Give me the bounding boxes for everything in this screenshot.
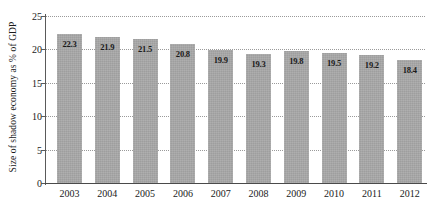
bar-value-label: 19.3 [246, 59, 271, 69]
x-axis-tick-label: 2010 [315, 188, 353, 199]
y-axis-tick-mark [41, 150, 45, 151]
y-axis-tick-label: 0 [24, 178, 42, 189]
bar[interactable] [95, 37, 120, 183]
y-axis-tick-label: 5 [24, 144, 42, 155]
x-axis-line [45, 183, 427, 184]
x-axis-tick-label: 2011 [353, 188, 391, 199]
bar-value-label: 22.3 [57, 39, 82, 49]
y-axis-tick-mark [41, 16, 45, 17]
x-axis-tick-labels: 2003200420052006200720082009201020112012 [46, 188, 425, 204]
bar[interactable] [322, 53, 347, 183]
bar-chart: Size of shadow economy as % of GDP 05101… [0, 0, 434, 219]
x-axis-tick-label: 2004 [88, 188, 126, 199]
y-axis-tick-label: 25 [24, 11, 42, 22]
x-axis-tick-label: 2012 [391, 188, 429, 199]
bar[interactable] [57, 34, 82, 183]
y-axis-tick-mark [41, 83, 45, 84]
y-axis-tick-label: 15 [24, 77, 42, 88]
bar[interactable] [170, 44, 195, 183]
x-axis-tick-label: 2005 [126, 188, 164, 199]
bars-layer: 22.321.921.520.819.919.319.819.519.218.4 [46, 16, 425, 183]
y-axis-title: Size of shadow economy as % of GDP [6, 2, 20, 192]
x-axis-tick-label: 2006 [164, 188, 202, 199]
bar-value-label: 19.9 [208, 55, 233, 65]
y-axis-tick-mark [41, 49, 45, 50]
bar-value-label: 21.5 [133, 44, 158, 54]
bar[interactable] [284, 51, 309, 183]
bar-value-label: 19.2 [359, 60, 384, 70]
x-axis-tick-label: 2009 [277, 188, 315, 199]
bar[interactable] [359, 55, 384, 183]
bar-value-label: 19.8 [284, 56, 309, 66]
y-axis-tick-mark [41, 116, 45, 117]
x-axis-tick-label: 2007 [202, 188, 240, 199]
bar[interactable] [246, 54, 271, 183]
bar-value-label: 21.9 [95, 42, 120, 52]
bar[interactable] [397, 60, 422, 183]
bar-value-label: 20.8 [170, 49, 195, 59]
bar[interactable] [208, 50, 233, 183]
y-axis-tick-labels: 0510152025 [20, 0, 42, 219]
y-axis-tick-mark [41, 183, 45, 184]
bar-value-label: 19.5 [322, 58, 347, 68]
bar-value-label: 18.4 [397, 65, 422, 75]
y-axis-tick-label: 10 [24, 111, 42, 122]
x-axis-tick-label: 2003 [51, 188, 89, 199]
y-axis-tick-label: 20 [24, 44, 42, 55]
x-axis-tick-label: 2008 [240, 188, 278, 199]
bar[interactable] [133, 39, 158, 183]
